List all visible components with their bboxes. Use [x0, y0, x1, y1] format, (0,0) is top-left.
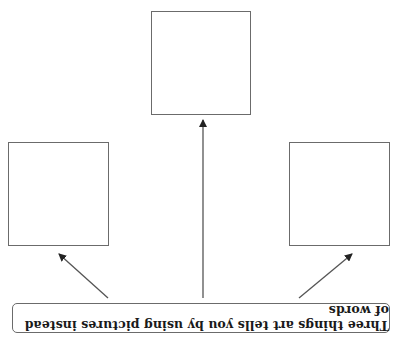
- arrow-right: [59, 254, 108, 298]
- answer-box-bottom-center[interactable]: [151, 11, 251, 115]
- answer-box-right[interactable]: [8, 142, 109, 246]
- prompt-label-text: Three things art tells you by using pict…: [13, 303, 389, 333]
- arrow-left: [299, 254, 352, 298]
- prompt-label-box: Three things art tells you by using pict…: [12, 303, 390, 333]
- diagram-canvas: Three things art tells you by using pict…: [0, 0, 402, 338]
- answer-box-left[interactable]: [289, 142, 390, 246]
